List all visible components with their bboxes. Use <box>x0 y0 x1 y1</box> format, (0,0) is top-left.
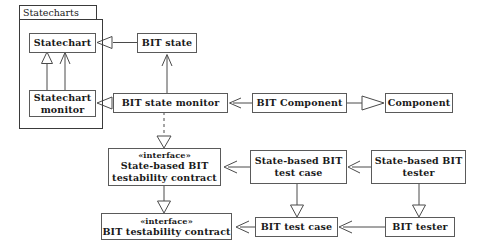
node-bit-state-monitor-label: BIT state monitor <box>122 97 220 109</box>
node-statechart-monitor-label-line2: monitor <box>41 104 85 116</box>
hollow-triangle-arrowhead <box>291 205 304 217</box>
node-bit-contract-label: BIT testability contract <box>102 226 230 238</box>
node-state-based-test-case-label-line2: test case <box>274 167 322 179</box>
node-statechart[interactable]: Statechart <box>29 33 96 53</box>
node-bit-test-case[interactable]: BIT test case <box>255 217 338 237</box>
node-bit-test-case-label: BIT test case <box>261 221 333 233</box>
node-state-based-bit-testability-contract[interactable]: «interface» State-based BIT testability … <box>108 148 221 186</box>
node-state-based-tester-label-line1: State-based BIT <box>375 155 463 167</box>
stereotype-interface-label: «interface» <box>140 216 193 226</box>
hollow-triangle-arrowhead <box>158 201 171 213</box>
node-state-based-contract-label-line2: testability contract <box>112 172 217 184</box>
open-arrowhead <box>224 161 237 173</box>
package-statecharts-tab: Statecharts <box>19 5 97 20</box>
node-bit-testability-contract[interactable]: «interface» BIT testability contract <box>101 213 232 240</box>
open-arrowhead <box>230 98 242 108</box>
node-statechart-monitor[interactable]: Statechart monitor <box>29 90 96 117</box>
open-arrowhead <box>162 55 172 67</box>
node-bit-tester[interactable]: BIT tester <box>385 217 455 237</box>
node-component-label: Component <box>388 97 451 109</box>
hollow-triangle-arrowhead <box>362 96 384 110</box>
node-bit-state[interactable]: BIT state <box>137 33 197 53</box>
node-component[interactable]: Component <box>385 93 453 113</box>
node-statechart-monitor-label-line1: Statechart <box>34 92 92 104</box>
node-bit-state-label: BIT state <box>142 37 193 49</box>
hollow-triangle-arrowhead <box>413 205 426 217</box>
node-bit-tester-label: BIT tester <box>392 221 448 233</box>
uml-class-diagram: Statecharts Statechart BIT state Statech… <box>0 0 483 251</box>
open-arrowhead <box>348 161 360 173</box>
stereotype-interface-label: «interface» <box>138 150 191 160</box>
node-bit-state-monitor[interactable]: BIT state monitor <box>113 93 228 113</box>
node-state-based-bit-test-case[interactable]: State-based BIT test case <box>250 150 347 184</box>
node-state-based-tester-label-line2: tester <box>402 167 434 179</box>
package-statecharts-label: Statecharts <box>23 7 79 18</box>
node-bit-component[interactable]: BIT Component <box>252 93 347 113</box>
node-bit-component-label: BIT Component <box>257 97 343 109</box>
open-arrowhead <box>236 221 249 233</box>
node-state-based-bit-tester[interactable]: State-based BIT tester <box>371 150 466 184</box>
node-state-based-contract-label-line1: State-based BIT <box>121 160 209 172</box>
hollow-triangle-arrowhead <box>157 136 171 148</box>
node-state-based-test-case-label-line1: State-based BIT <box>255 155 343 167</box>
node-statechart-label: Statechart <box>34 37 92 49</box>
open-arrowhead <box>339 221 352 233</box>
